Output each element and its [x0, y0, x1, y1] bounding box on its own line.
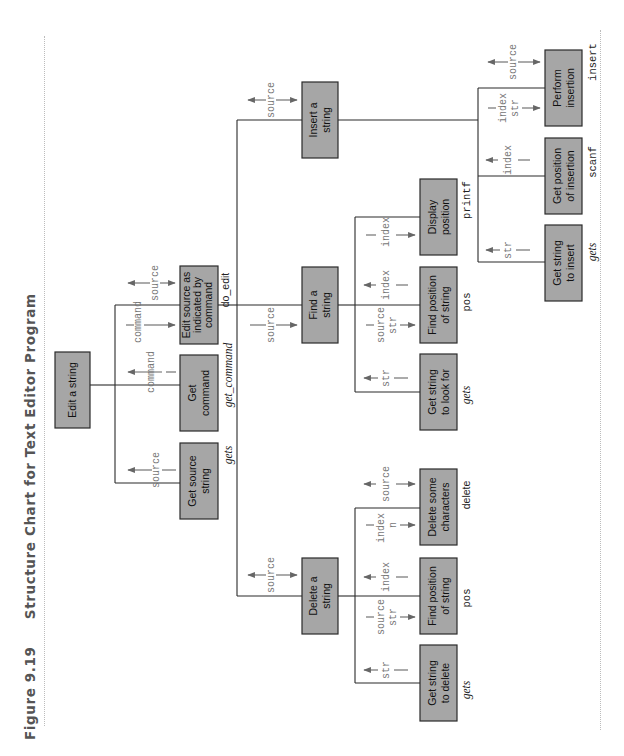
svg-text:to look for: to look for: [439, 368, 451, 415]
function-names: gets get_command do_edit gets pos delete…: [219, 43, 599, 699]
svg-text:gets: gets: [460, 385, 473, 404]
svg-text:position: position: [439, 199, 451, 235]
svg-text:Get: Get: [186, 384, 198, 401]
svg-text:str: str: [503, 241, 514, 259]
svg-text:Get source: Get source: [186, 455, 198, 507]
svg-text:gets: gets: [222, 445, 235, 464]
svg-text:Find position: Find position: [426, 566, 438, 626]
svg-text:str: str: [381, 369, 392, 387]
svg-text:str: str: [381, 661, 392, 679]
svg-text:Get string: Get string: [551, 240, 563, 286]
module-find-position-of-string-delete: Find position of string: [420, 558, 457, 634]
svg-text:Find a: Find a: [307, 290, 319, 319]
svg-text:string: string: [199, 468, 211, 494]
svg-text:scanf: scanf: [587, 146, 599, 178]
svg-text:index: index: [503, 145, 514, 175]
svg-text:str: str: [510, 99, 521, 117]
module-get-command: Get command: [180, 355, 218, 431]
module-delete-a-string: Delete a string: [302, 558, 338, 634]
svg-text:insertion: insertion: [564, 68, 576, 108]
svg-text:source: source: [266, 82, 277, 118]
svg-text:Insert a: Insert a: [307, 102, 319, 137]
svg-text:str: str: [388, 608, 399, 626]
svg-text:Find position: Find position: [426, 275, 438, 335]
module-get-string-to-insert: Get string to insert: [545, 225, 582, 301]
module-find-a-string: Find a string: [302, 267, 338, 343]
svg-text:insert: insert: [587, 43, 599, 81]
svg-text:pos: pos: [461, 293, 473, 312]
svg-text:get_command: get_command: [222, 342, 235, 407]
svg-text:gets: gets: [460, 680, 473, 699]
svg-text:to insert: to insert: [564, 244, 576, 281]
module-get-source-string: Get source string: [180, 443, 218, 519]
svg-text:string: string: [320, 107, 332, 133]
svg-text:source: source: [381, 466, 392, 502]
module-delete-some-characters: Delete some characters: [420, 469, 457, 545]
svg-text:gets: gets: [586, 242, 599, 261]
module-find-position-of-string-find: Find position of string: [420, 267, 457, 343]
svg-text:source: source: [151, 452, 162, 488]
svg-text:Get position: Get position: [551, 148, 563, 204]
svg-text:source: source: [266, 557, 277, 593]
svg-text:Delete a: Delete a: [307, 576, 319, 615]
svg-text:source: source: [266, 307, 277, 343]
svg-text:command: command: [146, 351, 157, 393]
svg-text:of string: of string: [439, 286, 451, 324]
svg-text:n: n: [388, 522, 399, 528]
module-insert-a-string: Insert a string: [302, 82, 338, 158]
svg-text:pos: pos: [461, 589, 473, 608]
svg-text:Delete some: Delete some: [426, 477, 438, 536]
svg-text:source: source: [150, 265, 161, 301]
svg-text:index: index: [381, 562, 392, 592]
module-display-position: Display position: [420, 179, 457, 255]
svg-text:Get string: Get string: [426, 369, 438, 415]
svg-text:command: command: [199, 370, 211, 416]
structure-chart: Edit a string Get source string Get comm…: [0, 0, 624, 756]
svg-text:string: string: [320, 583, 332, 609]
svg-text:str: str: [388, 316, 399, 334]
svg-text:delete: delete: [460, 481, 472, 510]
module-get-string-to-look-for: Get string to look for: [420, 354, 457, 430]
svg-text:printf: printf: [461, 181, 473, 219]
svg-text:command: command: [202, 282, 214, 328]
svg-text:of string: of string: [439, 577, 451, 615]
svg-text:Perform: Perform: [551, 69, 563, 107]
svg-text:Edit a string: Edit a string: [66, 362, 78, 418]
svg-text:to delete: to delete: [439, 663, 451, 703]
svg-text:index: index: [376, 513, 387, 543]
module-get-string-to-delete: Get string to delete: [420, 645, 457, 721]
svg-text:string: string: [320, 292, 332, 318]
svg-text:do_edit: do_edit: [219, 273, 231, 308]
svg-text:source: source: [376, 307, 387, 343]
svg-text:index: index: [498, 93, 509, 123]
svg-text:of insertion: of insertion: [564, 150, 576, 202]
svg-text:Display: Display: [426, 199, 438, 234]
svg-text:command: command: [133, 301, 144, 343]
svg-text:source: source: [508, 44, 519, 80]
module-edit-a-string: Edit a string: [55, 352, 90, 428]
svg-text:index: index: [381, 217, 392, 247]
module-edit-source: Edit source as indicated by command: [180, 266, 218, 344]
svg-text:index: index: [381, 270, 392, 300]
svg-text:Get string: Get string: [426, 660, 438, 706]
svg-text:characters: characters: [439, 482, 451, 531]
module-get-position-of-insertion: Get position of insertion: [545, 138, 582, 214]
module-perform-insertion: Perform insertion: [545, 50, 582, 126]
svg-text:source: source: [376, 599, 387, 635]
